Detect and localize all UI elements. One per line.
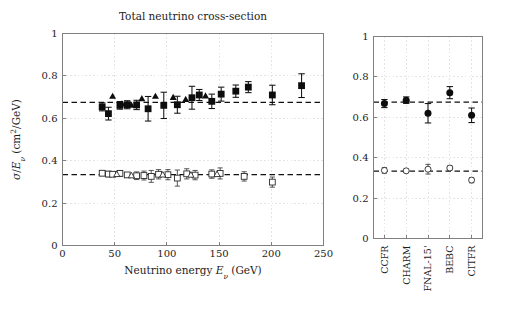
left-antineutrino-squares-marker-10 <box>174 175 180 181</box>
left-neutrino-triangles-marker-5 <box>170 94 177 100</box>
yaxis-label-units2: /GeV) <box>10 99 22 129</box>
right-antineutrino-experiments-marker-1 <box>403 168 409 174</box>
left-xticklabel-4: 200 <box>262 248 281 259</box>
left-neutrino-triangles-marker-3 <box>138 95 145 101</box>
right-category-label-3: BEBC <box>444 246 455 274</box>
right-neutrino-experiments-marker-2 <box>425 110 432 117</box>
left-panel-frame <box>63 34 324 246</box>
right-antineutrino-experiments-marker-0 <box>381 167 387 173</box>
right-yticklabel-0: 0 <box>362 233 368 244</box>
right-neutrino-experiments-marker-0 <box>381 100 388 107</box>
left-neutrino-squares-marker-12 <box>232 88 239 95</box>
left-neutrino-squares-marker-13 <box>245 84 252 91</box>
left-neutrino-squares-marker-7 <box>174 101 181 108</box>
figure-canvas: Total neutrino cross-section050100150200… <box>0 0 508 314</box>
left-yticklabel-0: 0 <box>51 240 57 251</box>
left-yticklabel-2: 0.4 <box>42 155 58 166</box>
right-neutrino-experiments-marker-3 <box>446 89 453 96</box>
right-panel: 00.20.40.60.81CCFRCHARMFNAL-15'BEBCCITFR <box>353 31 483 292</box>
left-xticklabel-2: 100 <box>157 248 176 259</box>
left-neutrino-squares-marker-14 <box>269 92 276 99</box>
right-yticklabel-2: 0.4 <box>353 152 369 163</box>
neutrino-cross-section-figure: Total neutrino cross-section050100150200… <box>0 0 508 314</box>
left-neutrino-squares-marker-9 <box>196 92 203 99</box>
left-antineutrino-squares-marker-7 <box>148 173 154 179</box>
right-yticklabel-5: 1 <box>362 31 368 42</box>
left-neutrino-squares-marker-10 <box>208 98 215 105</box>
left-antineutrino-squares-marker-0 <box>99 170 105 176</box>
right-antineutrino-experiments-marker-2 <box>425 166 431 172</box>
right-series-antineutrino-experiments <box>381 164 474 183</box>
left-neutrino-squares-marker-11 <box>218 91 225 98</box>
left-neutrino-triangles-marker-0 <box>109 93 116 99</box>
right-category-label-2: FNAL-15' <box>422 246 433 292</box>
right-category-label-4: CITFR <box>466 245 477 277</box>
left-neutrino-triangles-marker-4 <box>152 93 159 99</box>
left-xticklabel-0: 0 <box>59 248 65 259</box>
left-xticklabel-5: 250 <box>314 248 333 259</box>
right-category-label-0: CCFR <box>379 245 390 274</box>
left-yticklabel-4: 0.8 <box>42 70 58 81</box>
right-yticklabel-1: 0.2 <box>353 193 369 204</box>
left-neutrino-squares-marker-15 <box>298 82 305 89</box>
yaxis-label-energy: E <box>10 161 22 170</box>
left-neutrino-squares-marker-6 <box>160 102 167 109</box>
left-neutrino-squares-marker-1 <box>105 110 112 117</box>
left-yticklabel-5: 1 <box>51 28 57 39</box>
left-xaxis-label: Neutrino energy Eν (GeV) <box>124 264 261 281</box>
left-antineutrino-squares-marker-16 <box>269 179 275 185</box>
xaxis-label-post: (GeV) <box>228 264 262 276</box>
xaxis-label-symbol: E <box>215 264 224 276</box>
right-yticklabel-4: 0.8 <box>353 71 369 82</box>
left-neutrino-triangles-marker-7 <box>202 92 209 98</box>
right-antineutrino-experiments-marker-3 <box>447 165 453 171</box>
left-neutrino-triangles-marker-6 <box>182 96 189 102</box>
left-neutrino-squares-marker-8 <box>189 94 196 101</box>
right-yticklabel-3: 0.6 <box>353 112 369 123</box>
right-antineutrino-experiments-marker-4 <box>469 177 475 183</box>
left-panel: Total neutrino cross-section050100150200… <box>9 10 334 280</box>
left-neutrino-squares-marker-5 <box>145 105 152 112</box>
right-neutrino-experiments-marker-1 <box>403 97 410 104</box>
left-panel-title: Total neutrino cross-section <box>119 10 267 22</box>
left-xticklabel-1: 50 <box>108 248 121 259</box>
left-yticklabel-3: 0.6 <box>42 113 58 124</box>
left-series-neutrino-squares <box>99 74 305 121</box>
left-antineutrino-squares-marker-6 <box>141 173 147 179</box>
left-antineutrino-squares-marker-15 <box>241 173 247 179</box>
left-yaxis-label: σ/Eν (cm2/GeV) <box>9 99 27 180</box>
right-neutrino-experiments-marker-4 <box>468 112 475 119</box>
yaxis-label-units: (cm <box>10 134 22 157</box>
left-yticklabel-1: 0.2 <box>42 198 58 209</box>
right-category-label-1: CHARM <box>401 245 412 285</box>
left-neutrino-squares-marker-0 <box>99 103 106 110</box>
left-xticklabel-3: 150 <box>210 248 229 259</box>
xaxis-label-pre: Neutrino energy <box>124 264 215 276</box>
